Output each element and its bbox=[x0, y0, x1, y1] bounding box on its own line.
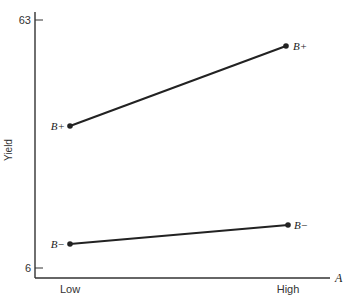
y-axis-title: Yield bbox=[3, 139, 14, 161]
x-axis-letter: A bbox=[334, 271, 343, 285]
series-bminus-point-low bbox=[67, 241, 73, 247]
series-bminus-label-right: B− bbox=[294, 219, 308, 231]
y-tick-label-6: 6 bbox=[25, 262, 31, 274]
series-bminus-label-left: B− bbox=[51, 238, 65, 250]
interaction-plot: 63 6 Yield Low High A B+ B+ B− B− bbox=[0, 0, 347, 299]
x-label-high: High bbox=[277, 283, 300, 295]
series-bplus-line bbox=[70, 46, 286, 126]
series-bplus-point-low bbox=[67, 123, 73, 129]
series-bplus-point-high bbox=[283, 43, 289, 49]
series-bminus-line bbox=[70, 225, 288, 244]
y-tick-label-63: 63 bbox=[19, 14, 31, 26]
series-bplus-label-right: B+ bbox=[293, 40, 307, 52]
series-bplus-label-left: B+ bbox=[51, 120, 65, 132]
series-bminus-point-high bbox=[285, 222, 291, 228]
x-label-low: Low bbox=[60, 283, 80, 295]
